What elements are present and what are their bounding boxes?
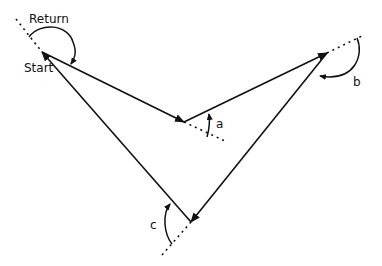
start-label: Start <box>24 62 53 74</box>
angle-b-arc <box>320 38 359 77</box>
return-label: Return <box>29 13 69 25</box>
angle-c-label: c <box>150 219 157 231</box>
segment-start-to-a <box>42 52 184 122</box>
segment-a-to-b <box>184 53 327 122</box>
angle-c-arc <box>165 204 172 244</box>
angle-a-label: a <box>216 118 223 130</box>
angle-a-arc <box>207 114 209 137</box>
return-angle-arc <box>29 27 75 64</box>
segment-c-to-start <box>42 52 191 222</box>
angle-b-label: b <box>353 76 361 88</box>
segment-b-to-c <box>191 53 327 222</box>
diagram-canvas <box>0 0 382 266</box>
extension-line-c <box>162 222 191 255</box>
